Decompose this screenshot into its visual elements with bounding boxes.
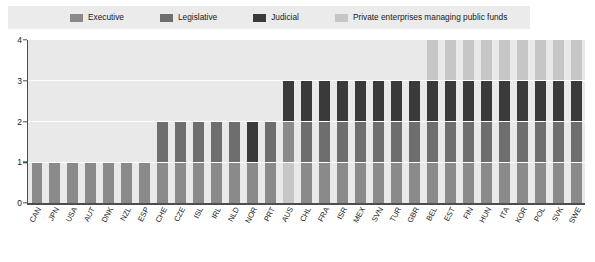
bar-segment[interactable] <box>445 122 456 163</box>
bar-segment[interactable] <box>499 162 510 203</box>
bar-segment[interactable] <box>517 81 528 122</box>
bar-segment[interactable] <box>32 162 43 203</box>
bar-segment[interactable] <box>265 122 276 163</box>
bar-segment[interactable] <box>571 122 582 163</box>
bar-segment[interactable] <box>517 122 528 163</box>
bar-segment[interactable] <box>517 40 528 81</box>
bar-segment[interactable] <box>535 122 546 163</box>
legend-item[interactable]: Executive <box>70 13 124 22</box>
bar-segment[interactable] <box>391 122 402 163</box>
bar-segment[interactable] <box>391 81 402 122</box>
bar-segment[interactable] <box>211 122 222 163</box>
bar-segment[interactable] <box>373 162 384 203</box>
bar-segment[interactable] <box>571 162 582 203</box>
bar-segment[interactable] <box>265 162 276 203</box>
bar-segment[interactable] <box>499 122 510 163</box>
stacked-bar[interactable] <box>337 81 348 203</box>
bar-segment[interactable] <box>157 122 168 163</box>
stacked-bar[interactable] <box>319 81 330 203</box>
bar-segment[interactable] <box>301 81 312 122</box>
stacked-bar[interactable] <box>139 162 150 203</box>
bar-segment[interactable] <box>391 162 402 203</box>
bar-segment[interactable] <box>157 162 168 203</box>
bar-segment[interactable] <box>139 162 150 203</box>
bar-segment[interactable] <box>463 40 474 81</box>
bar-segment[interactable] <box>355 122 366 163</box>
bar-segment[interactable] <box>175 162 186 203</box>
stacked-bar[interactable] <box>373 81 384 203</box>
bar-segment[interactable] <box>121 162 132 203</box>
bar-segment[interactable] <box>409 162 420 203</box>
bar-segment[interactable] <box>283 81 294 122</box>
bar-segment[interactable] <box>247 122 258 163</box>
bar-segment[interactable] <box>175 122 186 163</box>
bar-segment[interactable] <box>409 122 420 163</box>
bar-segment[interactable] <box>319 162 330 203</box>
bar-segment[interactable] <box>481 40 492 81</box>
stacked-bar[interactable] <box>67 162 78 203</box>
stacked-bar[interactable] <box>32 162 43 203</box>
bar-segment[interactable] <box>427 40 438 81</box>
bar-segment[interactable] <box>319 122 330 163</box>
bar-segment[interactable] <box>283 122 294 163</box>
stacked-bar[interactable] <box>283 81 294 203</box>
bar-segment[interactable] <box>463 122 474 163</box>
stacked-bar[interactable] <box>85 162 96 203</box>
bar-segment[interactable] <box>85 162 96 203</box>
bar-segment[interactable] <box>103 162 114 203</box>
legend-item[interactable]: Legislative <box>160 13 217 22</box>
bar-segment[interactable] <box>193 162 204 203</box>
legend-item[interactable]: Judicial <box>253 13 299 22</box>
bar-segment[interactable] <box>337 81 348 122</box>
bar-segment[interactable] <box>445 40 456 81</box>
bar-segment[interactable] <box>373 122 384 163</box>
bar-segment[interactable] <box>499 40 510 81</box>
bar-segment[interactable] <box>355 162 366 203</box>
bar-segment[interactable] <box>427 162 438 203</box>
bar-segment[interactable] <box>67 162 78 203</box>
bar-segment[interactable] <box>481 162 492 203</box>
bar-segment[interactable] <box>535 162 546 203</box>
legend-item[interactable]: Private enterprises managing public fund… <box>335 13 508 22</box>
stacked-bar[interactable] <box>409 81 420 203</box>
bar-segment[interactable] <box>481 81 492 122</box>
bar-segment[interactable] <box>193 122 204 163</box>
bar-segment[interactable] <box>373 81 384 122</box>
bar-segment[interactable] <box>535 81 546 122</box>
bar-segment[interactable] <box>481 122 492 163</box>
bar-segment[interactable] <box>229 122 240 163</box>
bar-segment[interactable] <box>211 162 222 203</box>
bar-segment[interactable] <box>535 40 546 81</box>
bar-segment[interactable] <box>409 81 420 122</box>
bar-segment[interactable] <box>571 81 582 122</box>
bar-segment[interactable] <box>427 122 438 163</box>
bar-segment[interactable] <box>553 81 564 122</box>
bar-segment[interactable] <box>445 81 456 122</box>
bar-segment[interactable] <box>301 122 312 163</box>
bar-segment[interactable] <box>499 81 510 122</box>
stacked-bar[interactable] <box>355 81 366 203</box>
bar-segment[interactable] <box>571 40 582 81</box>
bar-segment[interactable] <box>463 162 474 203</box>
bar-segment[interactable] <box>553 122 564 163</box>
bar-segment[interactable] <box>517 162 528 203</box>
stacked-bar[interactable] <box>49 162 60 203</box>
bar-segment[interactable] <box>463 81 474 122</box>
bar-segment[interactable] <box>553 162 564 203</box>
bar-segment[interactable] <box>337 122 348 163</box>
bar-segment[interactable] <box>355 81 366 122</box>
bar-segment[interactable] <box>337 162 348 203</box>
bar-segment[interactable] <box>283 162 294 203</box>
bar-segment[interactable] <box>553 40 564 81</box>
bar-segment[interactable] <box>319 81 330 122</box>
bar-segment[interactable] <box>427 81 438 122</box>
bar-segment[interactable] <box>247 162 258 203</box>
stacked-bar[interactable] <box>301 81 312 203</box>
bar-segment[interactable] <box>229 162 240 203</box>
stacked-bar[interactable] <box>121 162 132 203</box>
stacked-bar[interactable] <box>391 81 402 203</box>
bar-segment[interactable] <box>301 162 312 203</box>
bar-segment[interactable] <box>49 162 60 203</box>
bar-segment[interactable] <box>445 162 456 203</box>
stacked-bar[interactable] <box>103 162 114 203</box>
